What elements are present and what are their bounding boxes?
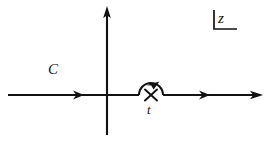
plane-label: z bbox=[218, 11, 224, 26]
plane-label-corner-bracket-icon bbox=[212, 9, 238, 31]
real-axis bbox=[8, 91, 263, 100]
contour-label: C bbox=[48, 62, 58, 77]
pole-label: t bbox=[147, 103, 151, 116]
pole-marker-x-icon bbox=[145, 90, 157, 101]
semicircular-indentation bbox=[139, 82, 163, 95]
z-plane-contour-figure: C t z bbox=[0, 0, 270, 142]
imaginary-axis bbox=[103, 6, 111, 135]
